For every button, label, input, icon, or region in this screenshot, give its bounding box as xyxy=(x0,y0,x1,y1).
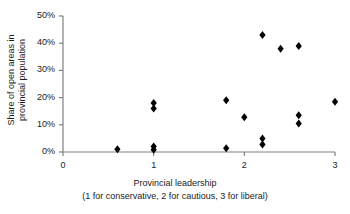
data-point xyxy=(259,31,265,39)
data-point xyxy=(296,42,302,50)
scatter-chart: Share of open areas in provincial popula… xyxy=(0,0,350,214)
x-axis-title: Provincial leadership xyxy=(0,177,350,189)
data-point xyxy=(296,119,302,127)
data-point xyxy=(296,111,302,119)
x-axis-title-sub: (1 for conservative, 2 for cautious, 3 f… xyxy=(0,190,350,202)
data-point xyxy=(259,134,265,142)
data-point xyxy=(223,144,229,152)
data-point xyxy=(332,98,338,106)
data-point xyxy=(241,113,247,121)
data-point xyxy=(151,99,157,107)
data-point xyxy=(277,45,283,53)
data-point xyxy=(223,96,229,104)
